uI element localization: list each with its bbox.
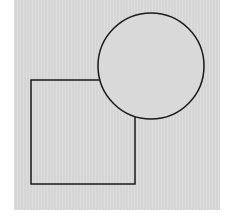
shapes-diagram bbox=[0, 0, 235, 219]
circle-shape bbox=[98, 13, 204, 119]
